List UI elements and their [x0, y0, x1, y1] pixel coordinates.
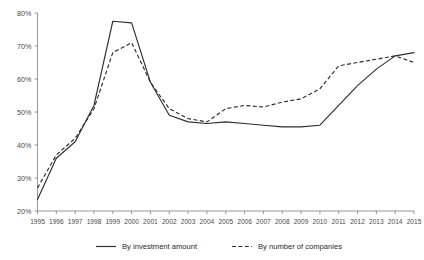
chart-canvas: 20%30%40%50%60%70%80% 199519961997199819…: [0, 0, 424, 260]
x-tick-label: 2014: [388, 218, 403, 225]
x-tick-label: 2009: [294, 218, 309, 225]
series-lines: [38, 21, 415, 199]
x-tick-label: 2001: [143, 218, 158, 225]
x-tick-label: 1997: [68, 218, 83, 225]
x-tick-label: 2006: [237, 218, 252, 225]
x-tick-label: 2003: [181, 218, 196, 225]
x-tick-label: 2010: [313, 218, 328, 225]
x-tick-label: 1995: [30, 218, 45, 225]
x-tick-label: 2013: [369, 218, 384, 225]
legend-label-1: By investment amount: [122, 242, 198, 251]
y-tick-label: 60%: [17, 75, 32, 84]
x-tick-label: 1996: [49, 218, 64, 225]
chart-legend: By investment amountBy number of compani…: [96, 242, 342, 251]
x-tick-label: 2007: [256, 218, 271, 225]
y-axis: 20%30%40%50%60%70%80%: [17, 9, 37, 216]
y-tick-label: 30%: [17, 174, 32, 183]
series-line-1: [38, 21, 415, 199]
legend-label-2: By number of companies: [258, 242, 342, 251]
x-tick-label: 1999: [105, 218, 120, 225]
series-line-2: [38, 43, 415, 188]
x-tick-label: 2002: [162, 218, 177, 225]
y-tick-label: 20%: [17, 207, 32, 216]
x-axis: 1995199619971998199920002001200220032004…: [30, 211, 422, 225]
y-tick-label: 50%: [17, 108, 32, 117]
y-tick-label: 80%: [17, 9, 32, 18]
x-tick-label: 2004: [200, 218, 215, 225]
x-tick-label: 2012: [350, 218, 365, 225]
x-tick-label: 1998: [87, 218, 102, 225]
y-tick-label: 70%: [17, 42, 32, 51]
x-tick-label: 2005: [218, 218, 233, 225]
x-tick-label: 2011: [332, 218, 347, 225]
x-tick-label: 2008: [275, 218, 290, 225]
y-tick-label: 40%: [17, 141, 32, 150]
x-tick-label: 2015: [407, 218, 422, 225]
line-chart: 20%30%40%50%60%70%80% 199519961997199819…: [0, 0, 424, 260]
x-tick-label: 2000: [124, 218, 139, 225]
